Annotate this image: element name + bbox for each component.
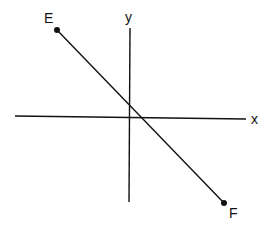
- y-axis-label: y: [125, 9, 132, 25]
- point-e-label: E: [44, 10, 53, 26]
- coordinate-diagram: E y x F: [0, 0, 277, 229]
- point-f-label: F: [229, 205, 238, 221]
- point-e-dot: [54, 27, 60, 33]
- x-axis: [15, 116, 246, 119]
- point-f-dot: [221, 200, 227, 206]
- x-axis-label: x: [251, 111, 258, 127]
- y-axis: [129, 28, 130, 202]
